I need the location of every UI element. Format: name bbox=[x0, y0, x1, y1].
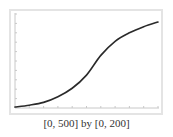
axes bbox=[15, 13, 159, 108]
window-caption: [0, 500] by [0, 200] bbox=[0, 117, 173, 129]
axis-ticks bbox=[15, 14, 158, 108]
curve-line bbox=[15, 22, 158, 107]
